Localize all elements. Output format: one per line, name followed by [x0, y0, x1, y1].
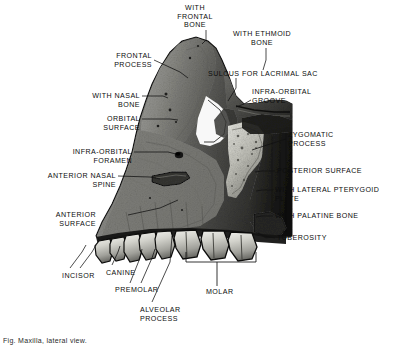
- label-with-palatine-bone: WITH PALATINE BONE: [275, 212, 359, 221]
- tooth-molar-3: [228, 232, 257, 261]
- leader-incisor-1: [70, 245, 86, 268]
- label-with-lateral-pterygoid-plate: WITH LATERAL PTERYGOID PLATE: [275, 186, 379, 203]
- label-with-nasal-bone: WITH NASAL BONE: [0, 92, 140, 109]
- label-molar: MOLAR: [206, 288, 233, 297]
- figure-caption: Fig. Maxilla, lateral view.: [3, 337, 87, 345]
- tooth-molar-2: [201, 231, 229, 260]
- label-canine: CANINE: [106, 269, 136, 278]
- label-with-ethmoid-bone: WITH ETHMOID BONE: [202, 30, 322, 47]
- label-infra-orbital-groove: INFRA-ORBITAL GROOVE: [252, 88, 311, 105]
- tooth-molar-1: [174, 230, 201, 259]
- label-orbital-surface: ORBITAL SURFACE: [0, 115, 140, 132]
- tooth-premolar-2: [155, 231, 175, 259]
- label-anterior-surface: ANTERIOR SURFACE: [0, 211, 96, 228]
- label-alveolar-process: ALVEOLAR PROCESS: [140, 306, 181, 323]
- label-zygomatic-process: ZYGOMATIC PROCESS: [288, 131, 334, 148]
- label-with-frontal-bone: WITH FRONTAL BONE: [135, 4, 255, 30]
- leader-incisor-2: [80, 245, 96, 268]
- label-frontal-process: FRONTAL PROCESS: [0, 52, 152, 69]
- label-infra-orbital-foramen: INFRA-ORBITAL FORAMEN: [0, 148, 132, 165]
- label-sulcus-for-lacrimal-sac: SULCUS FOR LACRIMAL SAC: [208, 70, 318, 79]
- label-anterior-nasal-spine: ANTERIOR NASAL SPINE: [0, 172, 116, 189]
- leader-with-ethmoid-bone: [263, 48, 266, 70]
- label-premolar: PREMOLAR: [115, 286, 158, 295]
- label-posterior-surface: POSTERIOR SURFACE: [277, 167, 362, 176]
- label-incisor: INCISOR: [62, 272, 95, 281]
- label-tuberosity: TUBEROSITY: [277, 234, 327, 243]
